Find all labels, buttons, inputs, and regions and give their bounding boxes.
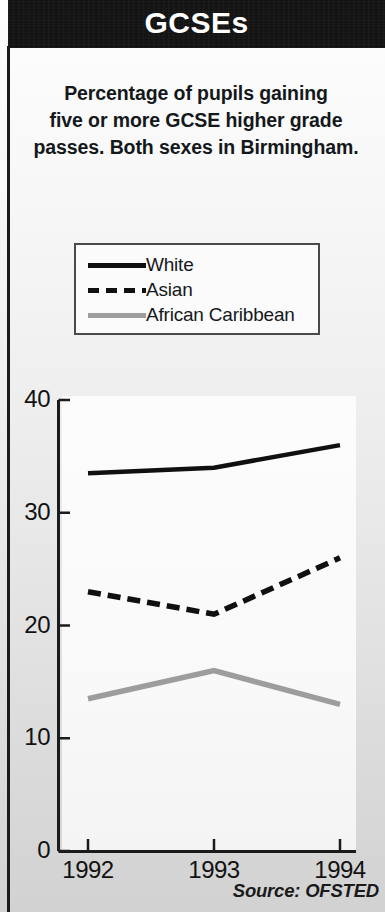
y-axis-tick-label: 30 [4,498,50,526]
y-axis-tick-label: 20 [4,611,50,639]
y-axis-ticks [59,400,71,851]
y-axis-tick-label: 40 [4,385,50,413]
chart-canvas [0,0,385,912]
series-line-asian [88,558,340,614]
x-axis-tick-label: 1992 [43,856,133,884]
y-axis-tick-label: 10 [4,723,50,751]
x-axis-ticks [88,839,340,851]
source-attribution: Source: OFSTED [233,880,379,902]
series-line-african-caribbean [88,671,340,705]
chart-series [88,445,340,704]
chart-page: GCSEs Percentage of pupils gaining five … [0,0,385,912]
series-line-white [88,445,340,473]
